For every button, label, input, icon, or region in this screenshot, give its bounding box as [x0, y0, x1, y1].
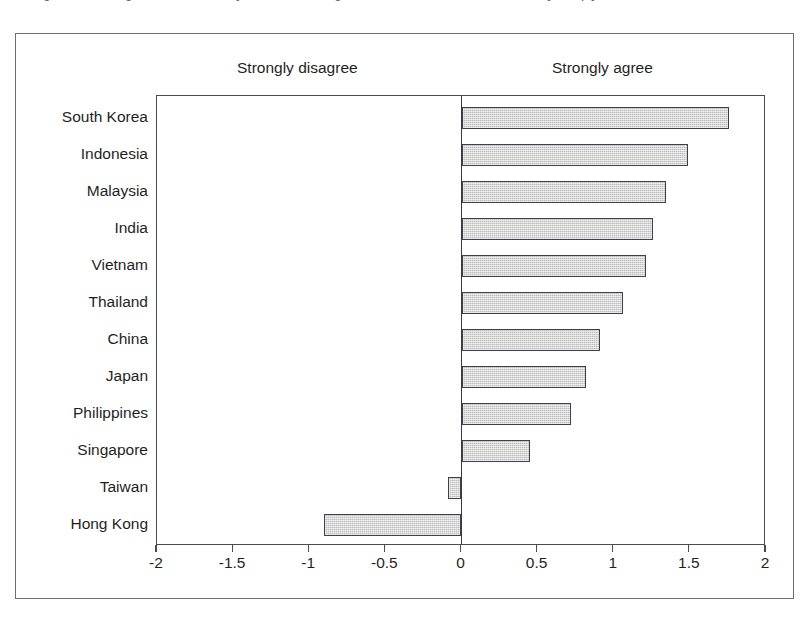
y-label-taiwan: Taiwan: [8, 476, 148, 498]
x-tick-label: 1: [608, 554, 617, 572]
x-axis: -2-1.5-1-0.500.511.52: [156, 545, 765, 590]
bar-hong-kong[interactable]: [324, 514, 461, 536]
x-tick-label: -0.5: [371, 554, 398, 572]
x-tick-label: 2: [761, 554, 770, 572]
x-tick-mark: [612, 545, 613, 552]
x-tick-label: 0.5: [526, 554, 548, 572]
annotation-strongly-disagree: Strongly disagree: [237, 59, 358, 77]
y-axis-labels: South KoreaIndonesiaMalaysiaIndiaVietnam…: [6, 95, 148, 545]
y-label-indonesia: Indonesia: [8, 143, 148, 165]
caption-text: The government regulates the economy and…: [18, 0, 600, 1]
x-tick-label: 0: [456, 554, 465, 572]
bar-row: [157, 477, 764, 499]
bar-row: [157, 514, 764, 536]
x-tick-mark: [308, 545, 309, 552]
x-tick-label: -2: [149, 554, 163, 572]
bar-vietnam[interactable]: [462, 255, 646, 277]
bar-indonesia[interactable]: [462, 144, 689, 166]
bar-japan[interactable]: [462, 366, 587, 388]
y-label-japan: Japan: [8, 365, 148, 387]
bar-row: [157, 218, 764, 240]
bar-singapore[interactable]: [462, 440, 531, 462]
x-tick-label: -1: [301, 554, 315, 572]
y-label-singapore: Singapore: [8, 439, 148, 461]
x-tick-mark: [384, 545, 385, 552]
x-tick-mark: [155, 545, 156, 552]
x-tick-mark: [764, 545, 765, 552]
y-label-philippines: Philippines: [8, 402, 148, 424]
y-label-vietnam: Vietnam: [8, 254, 148, 276]
bar-india[interactable]: [462, 218, 654, 240]
bar-south-korea[interactable]: [462, 107, 730, 129]
y-label-china: China: [8, 328, 148, 350]
x-tick-label: 1.5: [678, 554, 700, 572]
plot-area: [156, 95, 765, 545]
bar-row: [157, 107, 764, 129]
bar-taiwan[interactable]: [448, 477, 462, 499]
y-label-south-korea: South Korea: [8, 106, 148, 128]
bar-row: [157, 292, 764, 314]
caption-strip: The government regulates the economy and…: [0, 0, 810, 10]
bar-philippines[interactable]: [462, 403, 572, 425]
bar-row: [157, 440, 764, 462]
bar-malaysia[interactable]: [462, 181, 666, 203]
y-label-hong-kong: Hong Kong: [8, 513, 148, 535]
bar-row: [157, 366, 764, 388]
x-tick-mark: [688, 545, 689, 552]
y-label-india: India: [8, 217, 148, 239]
x-tick-mark: [460, 545, 461, 552]
bar-thailand[interactable]: [462, 292, 623, 314]
y-label-thailand: Thailand: [8, 291, 148, 313]
x-tick-mark: [232, 545, 233, 552]
bar-row: [157, 255, 764, 277]
bar-row: [157, 403, 764, 425]
x-tick-label: -1.5: [219, 554, 246, 572]
bar-row: [157, 181, 764, 203]
x-tick-mark: [536, 545, 537, 552]
annotation-strongly-agree: Strongly agree: [552, 59, 653, 77]
bar-row: [157, 144, 764, 166]
bar-row: [157, 329, 764, 351]
y-label-malaysia: Malaysia: [8, 180, 148, 202]
bar-china[interactable]: [462, 329, 601, 351]
